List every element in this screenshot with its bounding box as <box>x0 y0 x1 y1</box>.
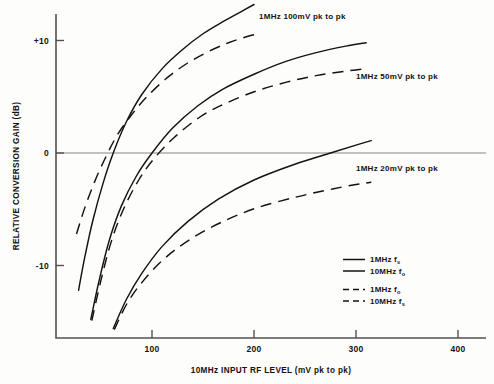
legend-label-main: 1MHz f <box>370 255 397 264</box>
y-axis-tick-labels: +100-10 <box>34 36 49 271</box>
annotation-label: 1MHz 50mV pk to pk <box>356 72 438 81</box>
legend-label-subscript: o <box>397 289 401 295</box>
legend-label-subscript: o <box>402 271 406 277</box>
legend-label: 10MHz fs <box>370 297 405 307</box>
y-axis-title: RELATIVE CONVERSION GAIN (dB) <box>12 102 21 251</box>
legend-label-subscript: s <box>397 259 400 265</box>
chart-legend: 1MHz fs10MHz fo1MHz fo10MHz fs <box>343 255 406 307</box>
curve-annotations: 1MHz 100mV pk to pk1MHz 50mV pk to pk1MH… <box>259 12 438 173</box>
curve-50mV-solid <box>91 43 366 320</box>
y-tick-label: 0 <box>44 148 49 158</box>
legend-label: 10MHz fo <box>370 267 406 277</box>
legend-label: 1MHz fo <box>370 285 401 295</box>
legend-label-main: 10MHz f <box>370 297 402 306</box>
x-tick-label: 300 <box>348 344 363 354</box>
curve-100mV-solid <box>79 5 254 291</box>
axis-frame <box>56 14 486 338</box>
x-axis-ticks <box>152 330 458 338</box>
y-tick-label: +10 <box>34 36 49 46</box>
annotation-label: 1MHz 20mV pk to pk <box>356 164 438 173</box>
x-axis-tick-labels: 100200300400 <box>144 344 465 354</box>
data-curves <box>77 5 372 330</box>
curve-50mV-dashed <box>92 69 366 321</box>
legend-label-subscript: s <box>402 301 405 307</box>
x-tick-label: 200 <box>246 344 261 354</box>
x-tick-label: 400 <box>450 344 465 354</box>
legend-label-main: 10MHz f <box>370 267 402 276</box>
x-tick-label: 100 <box>144 344 159 354</box>
y-axis-ticks <box>56 41 64 266</box>
legend-label-main: 1MHz f <box>370 285 397 294</box>
y-tick-label: -10 <box>36 261 49 271</box>
legend-label: 1MHz fs <box>370 255 400 265</box>
curve-20mV-solid <box>113 141 371 329</box>
x-axis-title: 10MHz INPUT RF LEVEL (mV pk to pk) <box>191 366 352 375</box>
curve-20mV-dashed <box>114 182 371 329</box>
figure-container: 100200300400 +100-10 1MHz 100mV pk to pk… <box>0 0 494 384</box>
annotation-label: 1MHz 100mV pk to pk <box>259 12 346 21</box>
relative-conversion-gain-chart: 100200300400 +100-10 1MHz 100mV pk to pk… <box>0 0 494 384</box>
